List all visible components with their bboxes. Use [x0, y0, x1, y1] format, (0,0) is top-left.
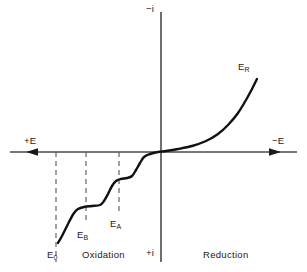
curve-stroke	[58, 79, 257, 243]
polarization-curve	[58, 79, 257, 243]
axis-label-negative-E: −E	[272, 136, 284, 146]
potential-label-EA: EA	[110, 219, 121, 229]
potential-label-E0: E0	[47, 250, 57, 260]
region-label-reduction: Reduction	[203, 250, 248, 260]
axis-label-positive-E: +E	[24, 136, 36, 146]
region-label-oxidation: Oxidation	[82, 250, 125, 260]
right-arrowhead-icon	[269, 148, 281, 156]
potential-label-ER: ER	[238, 62, 250, 72]
axis-label-negative-i: −i	[146, 4, 154, 14]
polarization-curve-figure: −i +i +E −E E0 EB EA ER Oxidation Reduct…	[0, 0, 307, 272]
left-arrowhead-icon	[26, 148, 38, 156]
potential-label-EB: EB	[77, 230, 88, 240]
figure-canvas	[0, 0, 307, 272]
axis-label-positive-i: +i	[146, 248, 154, 258]
